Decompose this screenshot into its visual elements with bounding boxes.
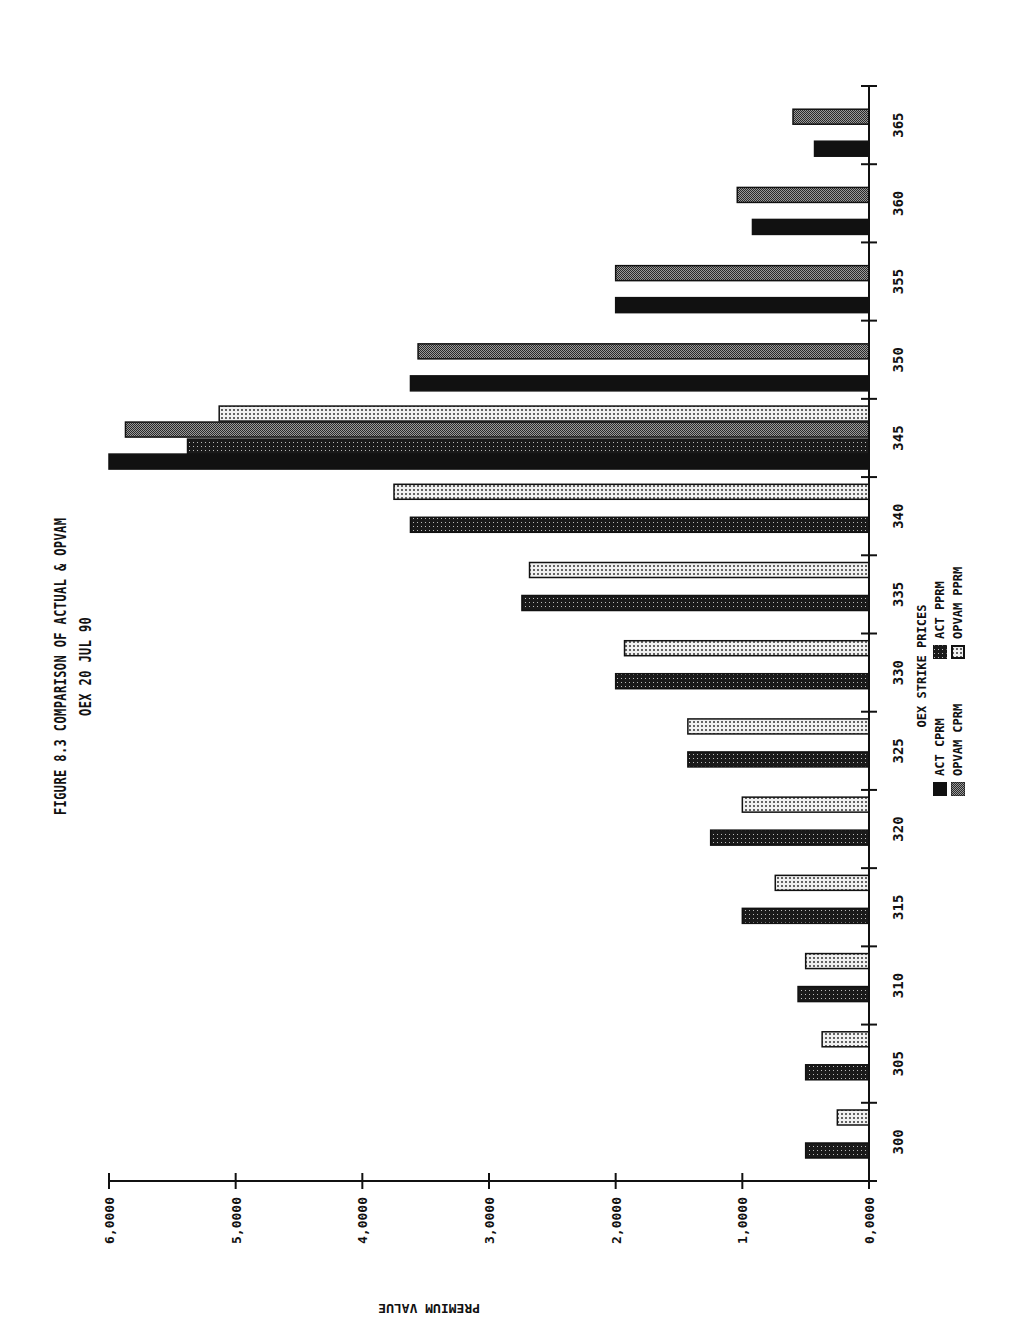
y-tick-label: 2,0000 xyxy=(609,1197,624,1244)
bar-act-pprm-345 xyxy=(188,439,869,454)
bar-opvam-pprm-325 xyxy=(688,719,869,734)
bar-opvam-pprm-340 xyxy=(394,484,869,499)
bar-act-cprm-345 xyxy=(109,454,869,469)
bar-act-pprm-320 xyxy=(711,830,869,845)
bar-opvam-pprm-345 xyxy=(219,406,869,421)
bar-act-pprm-340 xyxy=(410,517,869,532)
bar-act-cprm-350 xyxy=(410,376,869,391)
x-tick-label: 310 xyxy=(890,973,906,998)
bar-act-pprm-300 xyxy=(806,1143,869,1158)
bar-opvam-cprm-355 xyxy=(616,266,869,281)
x-tick-label: 325 xyxy=(890,738,906,763)
bar-chart: 3003053103153203253303353403453503553603… xyxy=(0,0,1011,1336)
x-tick-label: 305 xyxy=(890,1051,906,1076)
bar-opvam-cprm-345 xyxy=(125,422,869,437)
legend-swatch-gray-check-icon xyxy=(951,782,965,796)
x-axis-label: OEX STRIKE PRICES xyxy=(915,536,929,796)
bar-opvam-cprm-360 xyxy=(737,187,869,202)
x-tick-label: 355 xyxy=(890,269,906,294)
bar-opvam-pprm-330 xyxy=(625,641,869,656)
bar-act-pprm-325 xyxy=(688,752,869,767)
bar-act-pprm-330 xyxy=(616,674,869,689)
bar-opvam-cprm-350 xyxy=(418,344,869,359)
x-tick-label: 350 xyxy=(890,347,906,372)
legend: OEX STRIKE PRICES ACT CPRM ACT PPRM OPVA… xyxy=(915,536,965,796)
bar-act-pprm-335 xyxy=(522,596,869,611)
legend-swatch-solid-icon xyxy=(933,782,947,796)
y-tick-label: 1,0000 xyxy=(735,1197,750,1244)
rotated-figure-page: FIGURE 8.3 COMPARISON OF ACTUAL & OPVAM … xyxy=(0,0,1011,1336)
y-tick-label: 4,0000 xyxy=(355,1197,370,1244)
legend-swatch-light-dots-icon xyxy=(951,645,965,659)
bar-act-pprm-315 xyxy=(742,908,869,923)
x-tick-label: 360 xyxy=(890,191,906,216)
bar-opvam-cprm-365 xyxy=(793,109,869,124)
x-tick-label: 320 xyxy=(890,816,906,841)
x-tick-label: 300 xyxy=(890,1129,906,1154)
legend-swatch-dark-dots-icon xyxy=(933,645,947,659)
bar-act-cprm-360 xyxy=(752,219,869,234)
bar-act-pprm-310 xyxy=(798,987,869,1002)
bar-act-cprm-365 xyxy=(815,141,869,156)
x-tick-label: 345 xyxy=(890,425,906,450)
bar-opvam-pprm-335 xyxy=(530,563,869,578)
x-tick-label: 330 xyxy=(890,660,906,685)
bar-opvam-pprm-305 xyxy=(822,1032,869,1047)
bar-group xyxy=(109,109,869,1158)
bar-opvam-pprm-315 xyxy=(775,875,869,890)
legend-item-opvam-cprm: OPVAM CPRM xyxy=(951,673,965,796)
y-tick-label: 6,0000 xyxy=(102,1197,117,1244)
x-tick-label: 340 xyxy=(890,504,906,529)
bar-act-pprm-305 xyxy=(806,1065,869,1080)
y-tick-label: 0,0000 xyxy=(862,1197,877,1244)
legend-item-act-cprm: ACT CPRM xyxy=(933,673,947,796)
legend-item-act-pprm: ACT PPRM xyxy=(933,536,947,659)
bar-act-cprm-355 xyxy=(616,298,869,313)
x-tick-label: 315 xyxy=(890,895,906,920)
axes-group: 3003053103153203253303353403453503553603… xyxy=(102,86,906,1244)
y-tick-label: 3,0000 xyxy=(482,1197,497,1244)
bar-opvam-pprm-310 xyxy=(806,954,869,969)
x-tick-label: 335 xyxy=(890,582,906,607)
bar-opvam-pprm-320 xyxy=(742,797,869,812)
x-tick-label: 365 xyxy=(890,112,906,137)
y-tick-label: 5,0000 xyxy=(229,1197,244,1244)
legend-item-opvam-pprm: OPVAM PPRM xyxy=(951,536,965,659)
bar-opvam-pprm-300 xyxy=(837,1110,869,1125)
